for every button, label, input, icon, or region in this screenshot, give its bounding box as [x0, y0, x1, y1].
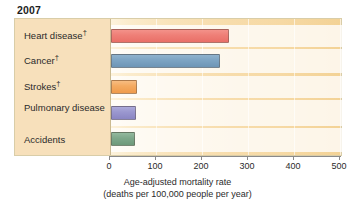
x-tick-400: [293, 156, 294, 160]
row-band: [111, 128, 342, 152]
category-label-text: Heart disease: [24, 30, 83, 41]
x-axis-title-line2: (deaths per 100,000 people per year): [0, 189, 355, 201]
x-tick-label-500: 500: [331, 161, 346, 171]
category-label-text: Accidents: [24, 134, 65, 145]
category-label-heart-disease: Heart disease†: [24, 31, 110, 42]
x-tick-200: [201, 156, 202, 160]
row-band: [111, 100, 342, 126]
mortality-bar-chart-figure: 2007 Heart disease† Cancer† Strokes†: [0, 0, 355, 216]
table-row: Strokes†: [15, 76, 341, 98]
chart-panel: Heart disease† Cancer† Strokes† Pulmonar…: [14, 18, 342, 156]
category-label-text: Pulmonary disease: [24, 102, 105, 113]
page-title: 2007: [17, 4, 41, 16]
table-row: Heart disease†: [15, 25, 341, 47]
x-tick-label-100: 100: [147, 161, 162, 171]
category-label-pulmonary-disease: Pulmonary disease: [24, 103, 110, 114]
x-tick-label-300: 300: [239, 161, 254, 171]
bar-strokes: [111, 80, 137, 94]
table-row: Accidents: [15, 128, 341, 152]
table-row: Cancer†: [15, 49, 341, 73]
table-row: Pulmonary disease: [15, 100, 341, 126]
x-axis-line: [109, 156, 341, 157]
x-tick-100: [155, 156, 156, 160]
bar-heart-disease: [111, 29, 229, 43]
x-tick-label-200: 200: [193, 161, 208, 171]
category-label-text: Cancer: [24, 55, 55, 66]
x-tick-0: [109, 156, 110, 160]
bar-cancer: [111, 54, 220, 68]
bar-pulmonary-disease: [111, 106, 136, 120]
x-tick-label-400: 400: [285, 161, 300, 171]
x-tick-300: [247, 156, 248, 160]
x-axis-title-line1: Age-adjusted mortality rate: [124, 177, 232, 187]
category-label-strokes: Strokes†: [24, 82, 110, 93]
x-axis-title: Age-adjusted mortality rate (deaths per …: [0, 177, 355, 200]
dagger-icon: †: [55, 53, 59, 62]
dagger-icon: †: [56, 79, 60, 88]
x-tick-500: [339, 156, 340, 160]
category-label-accidents: Accidents: [24, 135, 110, 146]
x-tick-label-0: 0: [106, 161, 111, 171]
category-label-cancer: Cancer†: [24, 56, 110, 67]
dagger-icon: †: [83, 28, 87, 37]
category-label-text: Strokes: [24, 81, 56, 92]
row-band: [111, 76, 342, 98]
bar-accidents: [111, 132, 135, 146]
